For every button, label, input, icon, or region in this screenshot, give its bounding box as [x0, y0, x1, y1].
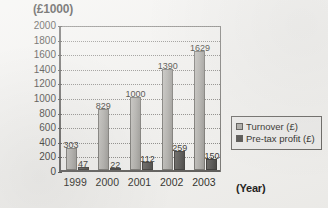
- gridline: [61, 41, 220, 42]
- y-tick-label: 1400: [20, 64, 56, 75]
- y-tick-label: 200: [20, 151, 56, 162]
- bar-value-label: 303: [51, 140, 91, 150]
- y-tick-mark: [58, 128, 62, 129]
- legend-label: Pre-tax profit (£): [246, 133, 315, 144]
- y-tick-mark: [58, 70, 62, 71]
- chart-image: (£1000) 02004006008001000120014001600180…: [0, 0, 328, 208]
- y-tick-mark: [58, 99, 62, 100]
- bar-value-label: 1000: [116, 89, 156, 99]
- chart-title: (£1000): [33, 2, 73, 16]
- gridline: [61, 26, 220, 27]
- bar-value-label: 829: [83, 101, 123, 111]
- y-tick-mark: [58, 55, 62, 56]
- y-tick-mark: [58, 84, 62, 85]
- chart-legend: Turnover (£)Pre-tax profit (£): [231, 116, 322, 150]
- legend-item: Pre-tax profit (£): [236, 133, 317, 144]
- bar-value-label: 150: [192, 151, 232, 161]
- y-tick-label: 1800: [20, 35, 56, 46]
- y-tick-mark: [58, 41, 62, 42]
- plot-area: 3034782922100011213902591629150: [59, 26, 220, 172]
- legend-item: Turnover (£): [236, 121, 317, 132]
- bar-turnover-2002: [162, 69, 173, 170]
- legend-swatch-icon: [236, 135, 243, 142]
- y-tick-label: 1200: [20, 78, 56, 89]
- y-tick-label: 1000: [20, 93, 56, 104]
- legend-swatch-icon: [236, 123, 243, 130]
- y-tick-mark: [58, 157, 62, 158]
- bar-value-label: 1629: [180, 43, 220, 53]
- y-axis: 0200400600800100012001400160018002000: [16, 26, 56, 172]
- y-tick-label: 1600: [20, 49, 56, 60]
- y-tick-label: 600: [20, 122, 56, 133]
- bar-profit-2002: [174, 151, 185, 170]
- x-axis-title: (Year): [236, 182, 265, 194]
- x-tick-label: 2003: [182, 176, 226, 188]
- y-tick-mark: [58, 26, 62, 27]
- y-tick-mark: [58, 172, 62, 173]
- y-tick-label: 2000: [20, 20, 56, 31]
- y-tick-mark: [58, 114, 62, 115]
- y-tick-label: 0: [20, 166, 56, 177]
- legend-label: Turnover (£): [246, 121, 298, 132]
- bar-value-label: 1390: [148, 61, 188, 71]
- y-tick-label: 800: [20, 108, 56, 119]
